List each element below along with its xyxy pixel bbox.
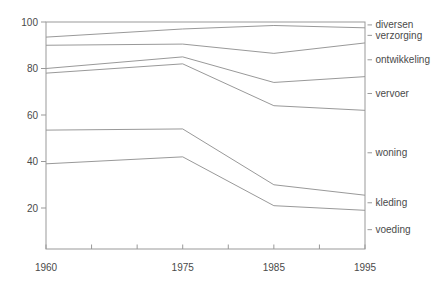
x-axis-tick-label: 1960 — [35, 262, 58, 273]
band-label-verzorging: verzorging — [376, 30, 423, 41]
band-label-vervoer: vervoer — [376, 88, 410, 99]
chart-page: 204060801001960197519851995diversenverzo… — [0, 0, 447, 291]
y-axis-tick-label: 100 — [21, 17, 38, 28]
y-axis-tick-label: 80 — [27, 63, 39, 74]
band-label-ontwikkeling: ontwikkeling — [376, 54, 430, 65]
series-line-verzorging — [46, 25, 365, 37]
series-line-ontwikkeling — [46, 43, 365, 53]
plot-frame — [46, 22, 365, 249]
x-axis-tick-label: 1985 — [263, 262, 286, 273]
band-label-kleding: kleding — [376, 197, 408, 208]
household-spending-shares-chart: 204060801001960197519851995diversenverzo… — [0, 0, 447, 291]
x-axis-tick-label: 1995 — [354, 262, 377, 273]
series-line-voeding — [46, 157, 365, 210]
x-axis-tick-label: 1975 — [172, 262, 195, 273]
y-axis-tick-label: 60 — [27, 110, 39, 121]
series-line-kleding — [46, 129, 365, 195]
band-label-woning: woning — [375, 147, 408, 158]
y-axis-tick-label: 20 — [27, 203, 39, 214]
band-label-voeding: voeding — [376, 224, 411, 235]
band-label-diversen: diversen — [376, 19, 414, 30]
y-axis-tick-label: 40 — [27, 156, 39, 167]
series-line-woning — [46, 64, 365, 111]
